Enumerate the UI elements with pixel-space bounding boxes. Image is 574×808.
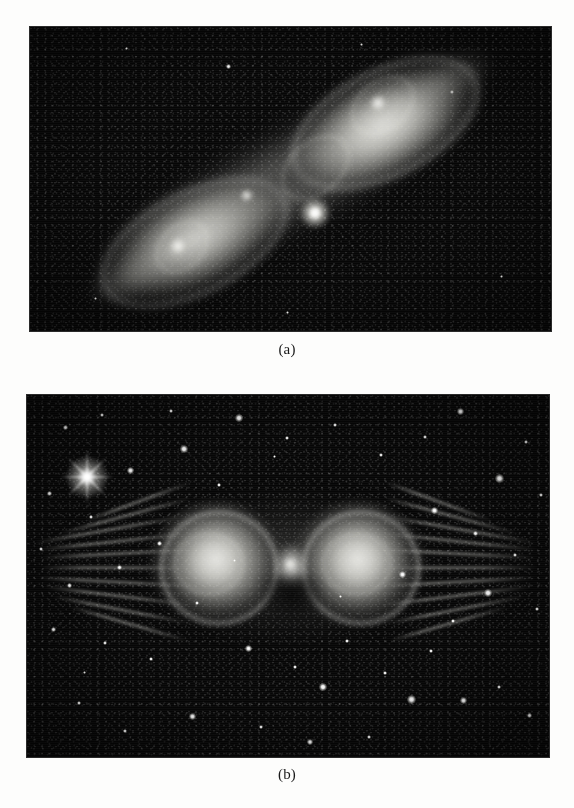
diffraction-star-glow	[65, 455, 109, 499]
figure-panel-a	[30, 27, 551, 331]
figure-panel-b	[27, 395, 549, 757]
caption-panel-b: (b)	[0, 766, 574, 783]
panel-a-vignette	[30, 27, 551, 331]
figure-page: (a)	[0, 0, 574, 808]
panel-b-vignette	[27, 395, 549, 757]
caption-panel-a: (a)	[0, 341, 574, 358]
